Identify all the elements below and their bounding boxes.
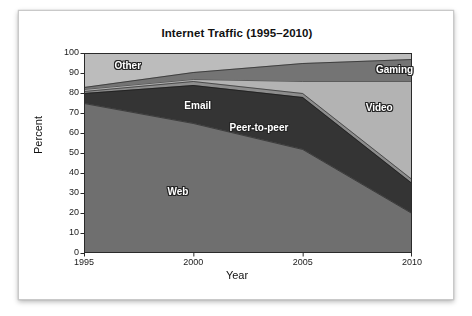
x-tick-label: 2005 <box>283 257 323 267</box>
y-tick-label: 90 <box>53 67 79 77</box>
y-tick-label: 50 <box>53 147 79 157</box>
y-tick-label: 20 <box>53 207 79 217</box>
y-tick-label: 60 <box>53 127 79 137</box>
y-tick-label: 70 <box>53 107 79 117</box>
y-tick-label: 80 <box>53 87 79 97</box>
y-tick-label: 0 <box>53 247 79 257</box>
chart-figure-frame: Internet Traffic (1995–2010) Percent Yea… <box>18 10 454 300</box>
x-tick-label: 1995 <box>64 257 104 267</box>
y-tick-label: 40 <box>53 167 79 177</box>
x-axis-title: Year <box>19 269 455 281</box>
y-axis-title: Percent <box>32 100 44 170</box>
x-tick-label: 2010 <box>392 257 432 267</box>
y-tick-label: 30 <box>53 187 79 197</box>
x-tick-label: 2000 <box>173 257 213 267</box>
y-tick-label: 100 <box>53 47 79 57</box>
y-tick-label: 10 <box>53 227 79 237</box>
